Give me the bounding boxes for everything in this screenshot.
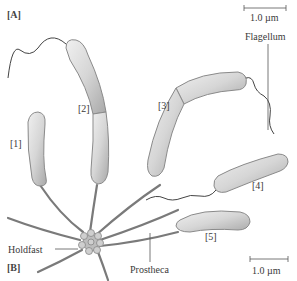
- scale-bar-top: [244, 5, 286, 11]
- prostheca-label: Prostheca: [130, 264, 169, 275]
- cell-5: [176, 211, 250, 232]
- flagellum-label: Flagellum: [245, 31, 286, 42]
- scale-bar-bottom: [250, 256, 288, 262]
- cell-label-4: [4]: [252, 180, 264, 191]
- cell-label-3: [3]: [158, 100, 170, 111]
- caulobacter-diagram: [A] [B] 1.0 µm 1.0 µm Flagellum Holdfast…: [0, 0, 297, 281]
- cell-2: [8, 38, 109, 184]
- panel-label-b: [B]: [7, 262, 20, 273]
- cell-label-5: [5]: [205, 231, 217, 242]
- holdfast-label: Holdfast: [8, 244, 42, 255]
- scale-label-bottom: 1.0 µm: [252, 265, 281, 276]
- cell-1: [28, 112, 47, 186]
- scale-label-top: 1.0 µm: [250, 12, 279, 23]
- cell-label-2: [2]: [78, 103, 90, 114]
- panel-label-a: [A]: [7, 9, 21, 20]
- diagram-graphic: [0, 0, 297, 281]
- cell-4: [146, 154, 288, 200]
- cell-label-1: [1]: [10, 138, 22, 149]
